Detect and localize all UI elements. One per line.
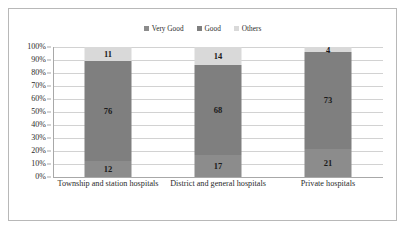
gridline [53, 177, 383, 178]
y-axis-tick-mark [47, 112, 51, 113]
bar-segment-value-label: 4 [326, 46, 330, 55]
y-axis-tick-label: 10% [31, 160, 46, 168]
y-axis-tick-label: 40% [31, 121, 46, 129]
x-axis-category-label: Private hospitals [273, 179, 383, 189]
legend-swatch-icon [234, 26, 239, 31]
plot-area: 12761117681421734 [53, 47, 383, 177]
y-axis-tick-mark [47, 164, 51, 165]
bar-segment[interactable]: 12 [85, 161, 132, 177]
bar-segment-value-label: 76 [104, 107, 113, 116]
bar-segment-value-label: 73 [324, 96, 333, 105]
y-axis-tick-label: 30% [31, 134, 46, 142]
y-axis-tick-mark [47, 99, 51, 100]
y-axis-tick-label: 80% [31, 69, 46, 77]
legend-swatch-icon [144, 26, 149, 31]
x-axis-category-labels: Township and station hospitalsDistrict a… [53, 179, 383, 189]
bar-slot: 176814 [163, 47, 273, 177]
y-axis-tick-label: 100% [27, 43, 46, 51]
bar-segment[interactable]: 11 [85, 47, 132, 61]
bar-segment[interactable]: 14 [195, 47, 242, 65]
bar-slot: 127611 [53, 47, 163, 177]
bar-segment-value-label: 17 [214, 162, 223, 171]
y-axis-tick-label: 20% [31, 147, 46, 155]
bar-segment[interactable]: 4 [305, 47, 352, 52]
y-axis-tick-mark [47, 138, 51, 139]
bar-stack[interactable]: 176814 [195, 47, 242, 177]
bar-stack[interactable]: 127611 [85, 47, 132, 177]
bar-stack[interactable]: 21734 [305, 47, 352, 177]
x-axis-category-label: District and general hospitals [163, 179, 273, 189]
bar-segment[interactable]: 76 [85, 61, 132, 161]
bar-segment-value-label: 14 [214, 52, 223, 61]
legend-entry-others[interactable]: Others [234, 25, 261, 32]
y-axis: 100%90%80%70%60%50%40%30%20%10%0% [9, 47, 51, 177]
legend-swatch-icon [197, 26, 202, 31]
legend-entry-good[interactable]: Good [197, 25, 221, 32]
y-axis-tick-mark [47, 177, 51, 178]
legend-label: Others [242, 25, 261, 32]
bar-segment[interactable]: 17 [195, 155, 242, 177]
y-axis-tick-mark [47, 60, 51, 61]
y-axis-tick-label: 90% [31, 56, 46, 64]
y-axis-tick-label: 0% [35, 173, 46, 181]
y-axis-tick-mark [47, 86, 51, 87]
y-axis-tick-mark [47, 47, 51, 48]
bar-slot: 21734 [273, 47, 383, 177]
legend-label: Good [205, 25, 221, 32]
bar-segment[interactable]: 73 [305, 52, 352, 149]
bar-segment-value-label: 68 [214, 106, 223, 115]
bar-segment-value-label: 12 [104, 165, 113, 174]
legend-label: Very Good [152, 25, 184, 32]
x-axis-category-label: Township and station hospitals [53, 179, 163, 189]
legend-entry-very-good[interactable]: Very Good [144, 25, 184, 32]
bar-segment[interactable]: 68 [195, 65, 242, 154]
y-axis-tick-label: 50% [31, 108, 46, 116]
chart-frame: Very GoodGoodOthers 100%90%80%70%60%50%4… [8, 8, 397, 221]
chart-legend: Very GoodGoodOthers [9, 25, 396, 32]
y-axis-tick-mark [47, 73, 51, 74]
y-axis-tick-label: 70% [31, 82, 46, 90]
y-axis-tick-label: 60% [31, 95, 46, 103]
y-axis-tick-mark [47, 125, 51, 126]
y-axis-tick-mark [47, 151, 51, 152]
bar-segment-value-label: 11 [104, 50, 112, 59]
bar-segment-value-label: 21 [324, 159, 333, 168]
bar-segment[interactable]: 21 [305, 149, 352, 177]
bars-layer: 12761117681421734 [53, 47, 383, 177]
